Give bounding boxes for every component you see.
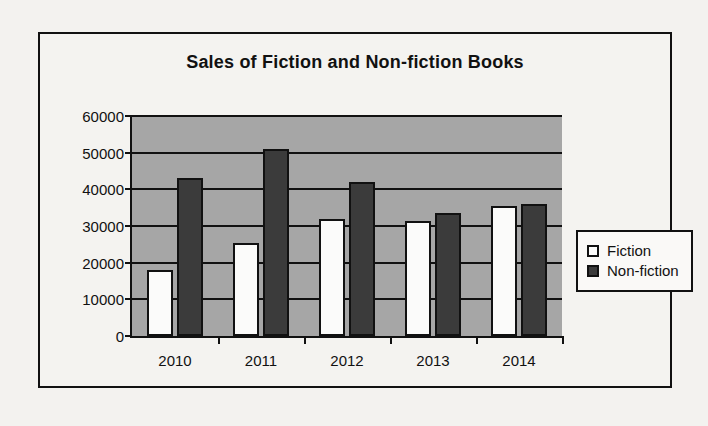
bar-non-fiction-2014[interactable]: [521, 204, 547, 336]
y-axis-tick-mark: [125, 335, 132, 337]
bar-group: [390, 116, 476, 336]
legend-item-fiction[interactable]: Fiction: [587, 242, 679, 259]
fiction-swatch-icon: [587, 245, 599, 257]
legend-item-label: Non-fiction: [607, 262, 679, 279]
y-axis-tick-label: 50000: [82, 144, 124, 161]
y-axis-tick-mark: [125, 298, 132, 300]
y-axis-tick-label: 40000: [82, 181, 124, 198]
y-axis-tick-label: 30000: [82, 218, 124, 235]
x-axis-tick-mark: [218, 336, 220, 344]
bar-non-fiction-2010[interactable]: [177, 178, 203, 336]
x-axis-tick-mark: [390, 336, 392, 344]
bar-non-fiction-2011[interactable]: [263, 149, 289, 336]
bar-group: [304, 116, 390, 336]
x-axis-tick-mark: [304, 336, 306, 344]
y-axis-tick-label: 10000: [82, 291, 124, 308]
legend-item-non-fiction[interactable]: Non-fiction: [587, 262, 679, 279]
y-axis-tick-label: 60000: [82, 108, 124, 125]
bar-fiction-2012[interactable]: [319, 219, 345, 336]
bar-non-fiction-2012[interactable]: [349, 182, 375, 336]
bar-group: [132, 116, 218, 336]
y-axis-tick-mark: [125, 225, 132, 227]
y-axis-tick-mark: [125, 152, 132, 154]
chart-frame: Sales of Fiction and Non-fiction Books 0…: [38, 32, 672, 388]
x-axis-tick-label-2010: 2010: [158, 352, 191, 369]
legend-item-label: Fiction: [607, 242, 651, 259]
bar-group: [218, 116, 304, 336]
x-axis-tick-mark: [476, 336, 478, 344]
bar-group: [476, 116, 562, 336]
non-fiction-swatch-icon: [587, 265, 599, 277]
y-axis-tick-label: 20000: [82, 254, 124, 271]
y-axis-tick-mark: [125, 188, 132, 190]
x-axis-tick-label-2011: 2011: [245, 352, 277, 369]
x-axis-tick-mark: [562, 336, 564, 344]
x-axis-tick-label-2012: 2012: [330, 352, 363, 369]
bar-fiction-2014[interactable]: [491, 206, 517, 336]
x-axis-tick-label-2013: 2013: [416, 352, 449, 369]
plot-area: 0100002000030000400005000060000201020112…: [130, 116, 562, 338]
y-axis-tick-mark: [125, 115, 132, 117]
y-axis-tick-mark: [125, 262, 132, 264]
bar-fiction-2013[interactable]: [405, 221, 431, 337]
chart-page: Sales of Fiction and Non-fiction Books 0…: [0, 0, 708, 426]
bar-fiction-2011[interactable]: [233, 243, 259, 337]
bar-fiction-2010[interactable]: [147, 270, 173, 336]
chart-legend: FictionNon-fiction: [576, 230, 693, 292]
chart-title: Sales of Fiction and Non-fiction Books: [40, 52, 670, 73]
x-axis-tick-label-2014: 2014: [502, 352, 535, 369]
bar-non-fiction-2013[interactable]: [435, 213, 461, 336]
y-axis-tick-label: 0: [116, 328, 124, 345]
